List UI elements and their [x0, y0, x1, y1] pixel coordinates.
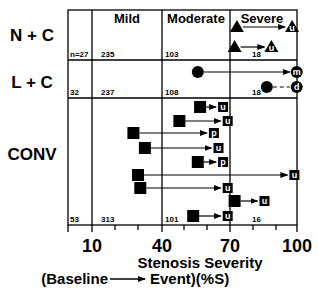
circle-icon	[261, 81, 273, 93]
transition-square: p	[192, 156, 228, 168]
x-tick-10: 10	[82, 236, 102, 256]
event-label: u	[225, 211, 231, 221]
transition-square: u	[194, 101, 228, 113]
square-icon	[139, 142, 151, 154]
transition-circle: m	[192, 66, 303, 78]
square-icon	[132, 169, 144, 181]
count-conv-mild: 313	[101, 215, 115, 224]
row-label-conv: CONV	[7, 145, 57, 164]
count-conv-moderate: 101	[165, 215, 179, 224]
data-markers: uumduupupuuuu	[127, 20, 302, 222]
transition-square: u	[139, 142, 224, 154]
row-label-lc: L + C	[11, 73, 53, 92]
event-label: u	[269, 43, 275, 53]
x-axis-title: Stenosis Severity	[137, 254, 263, 271]
count-lc-total: 32	[70, 88, 79, 97]
col-header-severe: Severe	[241, 11, 284, 26]
transition-square: u	[132, 169, 299, 181]
x-axis	[68, 225, 297, 232]
row-label-nc: N + C	[10, 26, 54, 45]
transition-square: u	[173, 115, 232, 127]
count-nc-total: n=27	[70, 50, 89, 59]
square-icon	[194, 101, 206, 113]
event-label: u	[216, 143, 222, 153]
x-tick-100: 100	[282, 236, 312, 256]
square-icon	[173, 115, 185, 127]
x-tick-40: 40	[152, 236, 172, 256]
event-label: u	[225, 183, 231, 193]
circle-icon	[192, 66, 204, 78]
x-tick-70: 70	[220, 236, 240, 256]
transition-square: p	[127, 127, 218, 139]
count-nc-severe: 18	[252, 50, 261, 59]
square-icon	[187, 210, 199, 222]
col-header-mild: Mild	[114, 11, 140, 26]
square-icon	[134, 182, 146, 194]
event-label: p	[220, 157, 226, 167]
square-icon	[127, 127, 139, 139]
x-axis-subtitle-start: (Baseline	[41, 270, 108, 287]
event-label: u	[220, 102, 226, 112]
square-icon	[192, 156, 204, 168]
event-label: d	[294, 82, 300, 92]
stenosis-chart: 10 40 70 100 Stenosis Severity (Baseline…	[0, 0, 318, 290]
x-axis-subtitle-end: Event)(%S)	[150, 270, 229, 287]
event-label: p	[211, 128, 217, 138]
event-label: u	[225, 116, 231, 126]
transition-square: u	[134, 182, 232, 194]
count-lc-mild: 237	[101, 88, 115, 97]
count-nc-mild: 235	[101, 50, 115, 59]
count-lc-moderate: 108	[165, 88, 179, 97]
transition-square: u	[229, 195, 270, 207]
count-conv-severe: 16	[252, 215, 261, 224]
count-nc-moderate: 103	[165, 50, 179, 59]
event-label: u	[292, 170, 298, 180]
count-lc-severe: 18	[252, 88, 261, 97]
transition-circle: d	[261, 81, 303, 93]
transition-square: u	[187, 210, 233, 222]
col-header-moderate: Moderate	[167, 11, 225, 26]
count-conv-total: 53	[70, 215, 79, 224]
event-label: m	[293, 67, 301, 77]
square-icon	[229, 195, 241, 207]
event-label: u	[289, 23, 295, 33]
event-label: u	[262, 196, 268, 206]
